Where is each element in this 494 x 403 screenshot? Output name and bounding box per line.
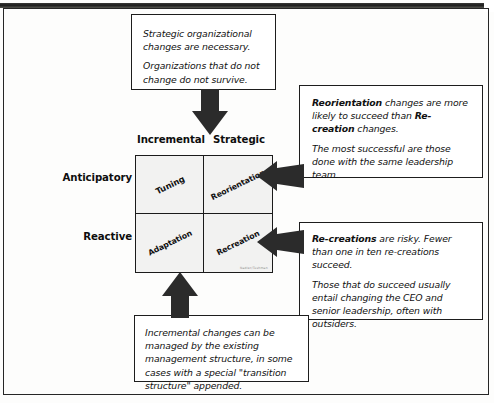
- matrix-cell-label-tuning: Tuning: [153, 173, 185, 196]
- callout-recreation: Re-creations are risky. Fewer than one i…: [299, 222, 483, 320]
- callout-incremental-change: Incremental changes can be managed by th…: [134, 315, 309, 382]
- callout-bottom-line1: Incremental changes can be managed by th…: [145, 326, 297, 392]
- column-header-strategic: Strategic: [204, 134, 274, 145]
- callout-recreation-bold-1: Re-creations: [312, 233, 377, 244]
- callout-recreation-line1: Re-creations are risky. Fewer than one i…: [312, 232, 470, 272]
- figure-page: Strategic organizational changes are nec…: [0, 0, 494, 403]
- arrow-up-to-adaptation: [161, 272, 199, 318]
- callout-reorientation-line1: Reorientation changes are more likely to…: [312, 96, 470, 136]
- row-header-reactive: Reactive: [33, 231, 132, 242]
- callout-reorientation-bold-1: Reorientation: [312, 97, 382, 108]
- matrix-credit-caption: Nadler/Tushman: [240, 266, 268, 270]
- callout-reorientation: Reorientation changes are more likely to…: [299, 85, 483, 178]
- callout-top-line1: Strategic organizational changes are nec…: [143, 27, 264, 53]
- change-type-matrix: Tuning Reorientation Adaptation Recreati…: [135, 155, 273, 273]
- row-header-anticipatory: Anticipatory: [33, 172, 132, 183]
- arrow-left-to-reorientation: [257, 159, 305, 193]
- callout-recreation-line2: Those that do succeed usually entail cha…: [312, 278, 470, 331]
- callout-reorientation-text-2: changes.: [355, 123, 399, 134]
- matrix-cell-label-adaptation: Adaptation: [146, 228, 193, 257]
- matrix-cell-label-recreation: Recreation: [215, 229, 261, 258]
- matrix-cell-adaptation[interactable]: Adaptation: [136, 214, 204, 272]
- callout-top-line2: Organizations that do not change do not …: [143, 59, 264, 85]
- arrow-down-to-strategic: [191, 89, 229, 135]
- arrow-left-to-recreation: [257, 225, 305, 259]
- column-header-incremental: Incremental: [136, 134, 206, 145]
- callout-reorientation-line2: The most successful are those done with …: [312, 142, 470, 182]
- matrix-cell-tuning[interactable]: Tuning: [136, 156, 204, 214]
- callout-strategic-change: Strategic organizational changes are nec…: [131, 14, 276, 90]
